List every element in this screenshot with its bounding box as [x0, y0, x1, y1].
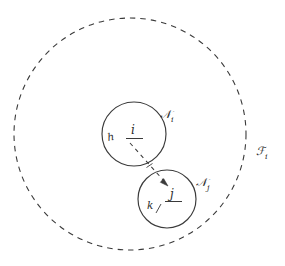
label-set-n-j: 𝒩 j — [196, 175, 211, 192]
label-set-n-i: 𝒩 i — [160, 107, 175, 124]
label-node-k: k — [147, 199, 153, 211]
label-region-f-i: ℱ i — [256, 144, 268, 161]
label-set-n-i-subscript: i — [171, 115, 174, 124]
tick-node-k — [156, 204, 161, 213]
figure-canvas: h i k j 𝒩 i 𝒩 j ℱ i — [0, 0, 285, 266]
label-region-f-i-subscript: i — [265, 152, 268, 161]
outer-dashed-circle — [14, 18, 246, 250]
dashed-arrow-head — [160, 179, 168, 186]
diagram-svg: h i k j 𝒩 i 𝒩 j ℱ i — [0, 0, 285, 266]
dashed-arrow-line — [130, 143, 165, 182]
label-node-j: j — [167, 187, 174, 201]
label-node-i: i — [131, 123, 135, 137]
label-node-h: h — [106, 130, 115, 143]
